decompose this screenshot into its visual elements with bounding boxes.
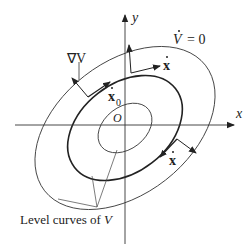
x-dot-bottom-dot	[172, 151, 174, 153]
level-curves-caption-text: Level curves of	[20, 212, 104, 227]
caption-leader-2	[97, 150, 117, 207]
x-dot-top-text: x	[163, 58, 170, 73]
caption-leader-3	[58, 199, 97, 207]
level-curves-caption: Level curves of V	[20, 212, 114, 227]
x-dot-top-label: x	[163, 56, 170, 73]
x-dot-bottom-text: x	[169, 153, 176, 168]
y-axis-label: y	[130, 10, 139, 25]
x-dot-bottom-label: x	[169, 151, 176, 168]
x-dot-0-label: x 0	[108, 87, 121, 108]
x-axis-label: x	[235, 106, 243, 121]
diagram-svg: y x O ∇V V = 0 x x 0 x Level curves of V	[0, 0, 251, 245]
v-dot-zero-label: V = 0	[173, 30, 205, 47]
grad-v-arrow	[72, 78, 88, 97]
normal-arrow-top	[129, 45, 131, 73]
x-dot-0-arrow	[88, 82, 110, 97]
v-dot-equals: = 0	[187, 32, 205, 47]
origin-label: O	[113, 111, 122, 125]
level-curves-caption-var: V	[104, 212, 114, 227]
grad-v-label: ∇V	[66, 51, 86, 66]
x-dot-0-text: x	[108, 89, 115, 104]
x-dot-top-dot	[166, 56, 168, 58]
x-dot-0-dot	[111, 87, 113, 89]
x-dot-0-subscript: 0	[116, 97, 121, 108]
normal-arrow-bottom	[177, 139, 196, 153]
x-dot-top-arrow	[131, 66, 160, 73]
v-dot-symbol: V	[173, 32, 183, 47]
lyapunov-diagram: y x O ∇V V = 0 x x 0 x Level curves of V	[0, 0, 251, 245]
v-dot-dot	[178, 30, 180, 32]
